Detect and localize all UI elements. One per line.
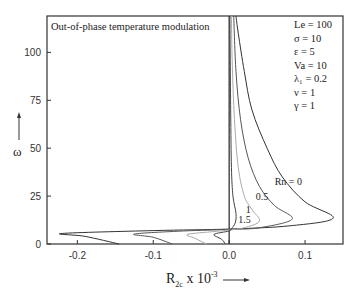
chart-title: Out-of-phase temperature modulation [51, 21, 210, 32]
y-tick-label: 25 [30, 191, 42, 202]
curve-rn0.5 [133, 16, 292, 244]
curve-rn1.5 [214, 16, 236, 244]
parameter-label: Le = 100 [294, 19, 332, 30]
x-tick-label: 0.1 [298, 250, 312, 261]
chart-container: -0.2-0.10.00.10255075100 Rn = 00.511.5 O… [0, 0, 358, 294]
parameter-label: Va = 10 [294, 60, 327, 71]
curve-label: Rn = 0 [275, 176, 302, 187]
curves [59, 16, 333, 244]
parameter-label: σ = 10 [294, 33, 321, 44]
parameter-label: ν = 1 [294, 87, 315, 98]
x-tick-label: 0.0 [222, 250, 236, 261]
parameter-label: ε = 5 [294, 46, 315, 57]
svg-text:ω: ω [13, 144, 22, 159]
x-tick-label: -0.2 [69, 250, 87, 261]
parameter-label: λ₁ = 0.2 [294, 73, 327, 84]
y-tick-label: 100 [24, 47, 41, 58]
svg-text:R2c x 10-3: R2c x 10-3 [166, 270, 218, 289]
y-tick-label: 50 [30, 143, 42, 154]
curve-label: 1.5 [238, 214, 251, 225]
y-axis-label: ω [13, 112, 22, 159]
curve-label: 0.5 [256, 191, 269, 202]
y-tick-label: 75 [30, 95, 42, 106]
parameter-label: γ = 1 [293, 100, 315, 111]
x-axis-label: R2c x 10-3 [166, 270, 250, 289]
line-chart: -0.2-0.10.00.10255075100 Rn = 00.511.5 O… [0, 0, 358, 294]
y-tick-label: 0 [35, 239, 41, 250]
curve-rn0 [59, 16, 333, 244]
x-tick-label: -0.1 [145, 250, 163, 261]
parameter-legend: Le = 100σ = 10ε = 5Va = 10λ₁ = 0.2ν = 1γ… [293, 19, 332, 111]
